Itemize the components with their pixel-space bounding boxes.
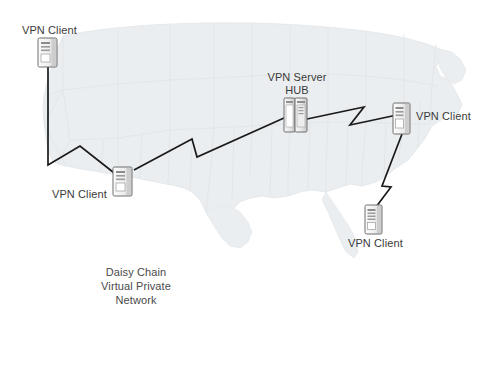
- client-southeast-label: VPN Client: [348, 237, 403, 250]
- client-southwest-label: VPN Client: [52, 188, 107, 201]
- network-diagram: VPN Client VPN Client VPN Server HUB VPN…: [0, 0, 491, 370]
- client-northeast-icon: [393, 103, 410, 134]
- diagram-caption: Daisy Chain Virtual Private Network: [94, 265, 178, 307]
- diagram-canvas: [0, 0, 491, 370]
- united-states-map: [43, 23, 466, 258]
- us-texas-shape: [206, 206, 252, 248]
- client-northeast-label: VPN Client: [416, 110, 471, 123]
- client-southeast-icon: [365, 205, 382, 234]
- client-southwest-icon: [113, 167, 132, 196]
- client-northwest-label: VPN Client: [22, 24, 77, 37]
- server-hub-label: VPN Server HUB: [266, 71, 328, 97]
- server-hub-icon: [284, 98, 307, 132]
- client-northwest-icon: [38, 38, 57, 67]
